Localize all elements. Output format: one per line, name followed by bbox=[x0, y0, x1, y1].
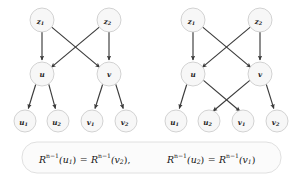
node-v[interactable]: v bbox=[97, 62, 121, 86]
formula1-rsup: n−1 bbox=[98, 152, 111, 159]
node-u[interactable]: u bbox=[30, 62, 54, 86]
formula1-argclose: ) bbox=[73, 153, 77, 164]
node-v1[interactable]: v1 bbox=[81, 110, 103, 132]
formula2-rel: = bbox=[208, 153, 216, 164]
formula2-arg: (u bbox=[187, 153, 197, 164]
node-u2-right[interactable]: u2 bbox=[198, 110, 220, 132]
formula2-argclose: ) bbox=[201, 153, 205, 164]
node-v2-right[interactable]: v2 bbox=[266, 110, 288, 132]
node-z1[interactable]: z1 bbox=[30, 8, 54, 32]
formula1-base: R bbox=[38, 153, 46, 164]
node-u2[interactable]: u2 bbox=[47, 110, 69, 132]
node-u1-right[interactable]: u1 bbox=[165, 110, 187, 132]
node-z2-sub: 2 bbox=[107, 20, 112, 26]
node-v1-right[interactable]: v1 bbox=[232, 110, 254, 132]
node-v-right[interactable]: v bbox=[248, 62, 272, 86]
node-u-label: u bbox=[39, 70, 44, 79]
formula1-rbase: R bbox=[90, 153, 98, 164]
node-u1-right-sub: 1 bbox=[175, 121, 178, 127]
node-u-right-label: u bbox=[190, 70, 195, 79]
formula1-arg: (u bbox=[59, 153, 69, 164]
node-v2-right-sub: 2 bbox=[275, 121, 280, 127]
formula1-rel: = bbox=[80, 153, 88, 164]
node-u1-sub: 1 bbox=[24, 121, 27, 127]
node-u2-right-sub: 2 bbox=[207, 121, 212, 127]
node-v2[interactable]: v2 bbox=[115, 110, 137, 132]
node-u1[interactable]: u1 bbox=[14, 110, 36, 132]
node-u-right[interactable]: u bbox=[181, 62, 205, 86]
formula2-rsup: n−1 bbox=[226, 152, 239, 159]
node-u2-sub: 2 bbox=[56, 121, 61, 127]
node-z1-right[interactable]: z1 bbox=[181, 8, 205, 32]
formula-box: Rn−1(u1)=Rn−1(v2), Rn−1(u2)=Rn−1(v1) bbox=[22, 142, 281, 173]
node-v1-right-sub: 1 bbox=[242, 121, 245, 127]
formula2-sup: n−1 bbox=[174, 152, 187, 159]
formula2-rargclose: ) bbox=[252, 153, 256, 164]
node-v2-sub: 2 bbox=[124, 121, 129, 127]
formula2-base: R bbox=[166, 153, 174, 164]
formula1-sup: n−1 bbox=[46, 152, 59, 159]
node-z2[interactable]: z2 bbox=[97, 8, 121, 32]
node-z1-right-sub: 1 bbox=[192, 20, 195, 26]
node-z2-right-sub: 2 bbox=[258, 20, 263, 26]
node-v1-sub: 1 bbox=[91, 121, 94, 127]
formula2-rbase: R bbox=[218, 153, 226, 164]
formula1-tail: , bbox=[127, 153, 130, 164]
graph-figure: z1 z2 u v u1 bbox=[0, 0, 303, 182]
node-z1-sub: 1 bbox=[41, 20, 44, 26]
node-z2-right[interactable]: z2 bbox=[248, 8, 272, 32]
